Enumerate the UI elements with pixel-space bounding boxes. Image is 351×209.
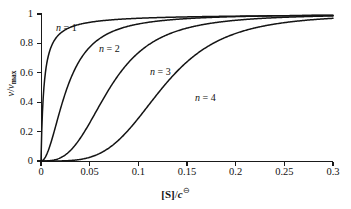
curve-n-4 bbox=[41, 18, 333, 161]
y-axis-title-denominator: v bbox=[5, 84, 16, 89]
chart-figure: 00.050.10.150.20.250.3 00.20.40.60.81 n … bbox=[0, 0, 351, 209]
curve-label-n-3: n = 3 bbox=[150, 66, 171, 77]
curve-n-2 bbox=[41, 15, 333, 161]
curve-label-n-4: n = 4 bbox=[195, 92, 216, 103]
y-axis-title: v/vmax bbox=[5, 54, 16, 114]
x-axis-title-species: [S] bbox=[161, 188, 174, 200]
curve-label-n-1: n = 1 bbox=[56, 22, 77, 33]
curve-n-1 bbox=[41, 15, 333, 161]
curve-lines bbox=[0, 0, 351, 209]
y-axis-title-numerator: v bbox=[5, 92, 16, 97]
x-axis-title-superscript: ⊖ bbox=[183, 186, 190, 195]
y-axis-title-subscript: max bbox=[9, 71, 18, 85]
curve-n-3 bbox=[41, 16, 333, 161]
x-axis-title: [S]/c⊖ bbox=[0, 186, 351, 200]
y-axis-title-divider: / bbox=[5, 89, 16, 92]
curve-label-n-2: n = 2 bbox=[99, 43, 120, 54]
